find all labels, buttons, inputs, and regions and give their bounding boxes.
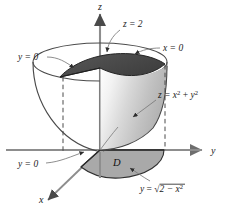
label-plane-y-equals-0-lower: y = 0 <box>17 159 38 169</box>
math-figure-paraboloid: z y x z = 2 x = 0 y = 0 y = 0 z = x2 + y… <box>0 0 233 215</box>
label-region-d: D <box>112 157 121 168</box>
label-plane-y-equals-0-upper: y = 0 <box>17 52 38 62</box>
surface-eq-lead: z = <box>157 90 173 100</box>
boundary-eq-equals: = <box>144 184 154 194</box>
leader-x-equals-0 <box>135 48 160 54</box>
label-plane-x-equals-0: x = 0 <box>162 43 183 53</box>
leader-z-equals-2 <box>107 30 120 52</box>
surface-eq-y-exponent: 2 <box>195 89 198 96</box>
surface-eq-plus: + <box>180 90 190 100</box>
label-surface-equation: z = x2 + y2 <box>157 89 198 100</box>
boundary-eq-inner: 2 − x <box>160 184 181 194</box>
label-plane-z-equals-2: z = 2 <box>122 19 143 29</box>
leader-y-equals-0-upper <box>47 57 74 68</box>
figure-canvas: z y x z = 2 x = 0 y = 0 y = 0 z = x2 + y… <box>0 0 233 215</box>
axis-label-z: z <box>97 1 102 12</box>
axis-label-x: x <box>38 194 44 205</box>
axis-label-y: y <box>210 145 216 156</box>
